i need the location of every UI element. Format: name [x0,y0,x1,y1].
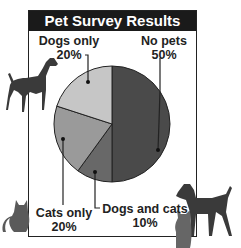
label-no-pets-pct: 50% [136,48,192,62]
label-cats-only-name: Cats only [34,206,94,220]
slice-no-pets [112,66,170,182]
label-dogs-and-cats-name: Dogs and cats [100,202,190,216]
label-cats-only-pct: 20% [34,220,94,234]
dog-silhouette-icon [6,58,58,112]
label-dogs-only-name: Dogs only [38,34,100,48]
cat-silhouette-icon [2,200,29,232]
label-no-pets-name: No pets [136,34,192,48]
label-dogs-only: Dogs only 20% [38,34,100,62]
label-dogs-only-pct: 20% [38,48,100,62]
label-dogs-and-cats-pct: 10% [100,216,190,230]
label-no-pets: No pets 50% [136,34,192,62]
label-dogs-and-cats: Dogs and cats 10% [100,202,190,230]
label-cats-only: Cats only 20% [34,206,94,234]
